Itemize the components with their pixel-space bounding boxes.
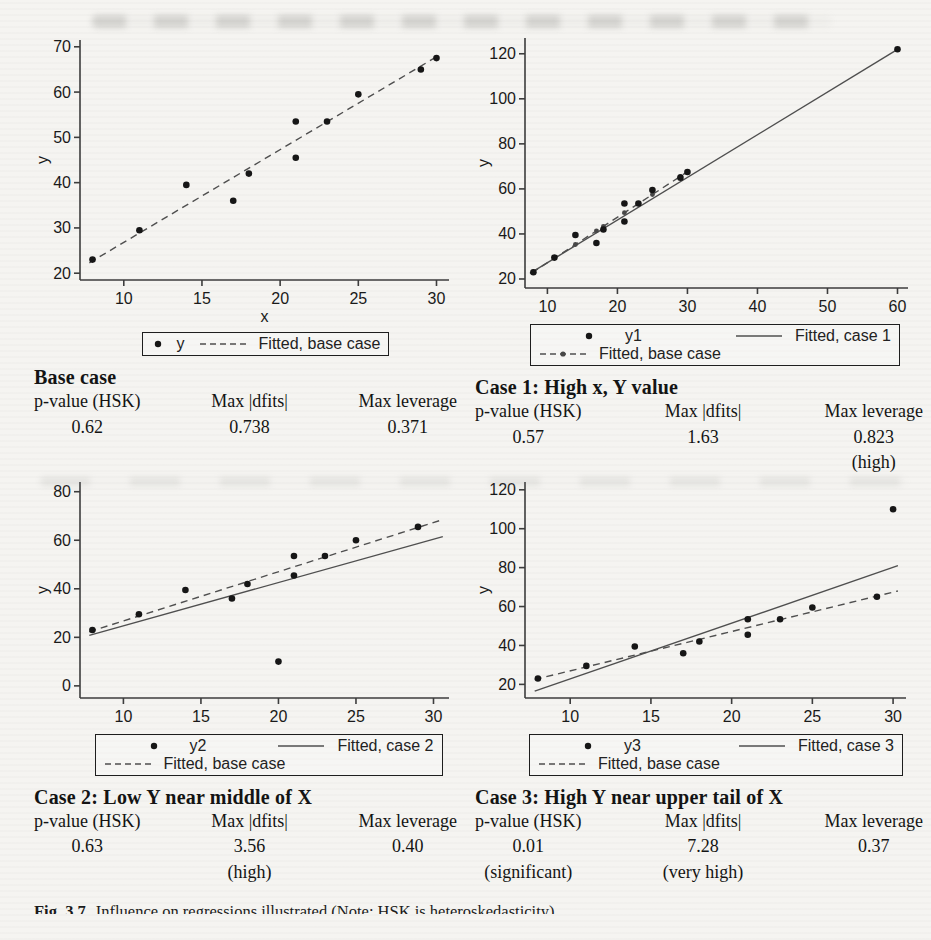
scatter-dot-icon: [565, 331, 613, 341]
case-1-scatter-chart: 20406080100120102030405060y: [475, 30, 920, 322]
stat-pvalue: p-value (HSK) 0.57: [475, 401, 581, 448]
legend-label: y1: [625, 327, 642, 345]
svg-text:20: 20: [53, 265, 71, 282]
svg-text:50: 50: [819, 298, 837, 315]
stat-label: Max leverage: [359, 811, 457, 833]
svg-text:25: 25: [803, 708, 821, 725]
legend-row: y3Fitted, case 3: [538, 737, 894, 755]
stat-value: 0.371: [359, 417, 457, 439]
stat-label: Max leverage: [825, 811, 923, 833]
solid-line-icon: [735, 331, 783, 341]
case-1-legend: y1Fitted, case 1Fitted, base case: [475, 324, 925, 366]
stat-label: p-value (HSK): [34, 811, 140, 833]
svg-text:20: 20: [53, 629, 71, 646]
legend-item: Fitted, case 2: [277, 737, 433, 755]
case-2-stats: p-value (HSK) 0.63 Max |dfits| 3.56 (hig…: [34, 811, 459, 884]
legend-item: Fitted, base case: [538, 755, 720, 773]
base-case-heading: Base case: [34, 366, 459, 389]
solid-line-icon: [277, 741, 325, 751]
stat-label: Max |dfits|: [211, 391, 288, 413]
svg-text:60: 60: [53, 84, 71, 101]
legend-row: y1Fitted, case 1: [539, 327, 891, 345]
figure-caption-number: Fig. 3.7: [34, 902, 86, 914]
legend-label: Fitted, case 3: [798, 737, 894, 755]
legend-item: y1: [539, 327, 642, 345]
base-case-legend: yFitted, base case: [34, 332, 459, 356]
stat-max-dfits: Max |dfits| 1.63: [665, 401, 742, 448]
dashed-line-icon: [199, 339, 247, 349]
svg-text:20: 20: [723, 708, 741, 725]
legend-label: Fitted, case 1: [795, 327, 891, 345]
stat-pvalue: p-value (HSK) 0.63: [34, 811, 140, 858]
legend-label: Fitted, base case: [598, 755, 720, 773]
dashed-line-icon: [538, 759, 586, 769]
stat-max-leverage: Max leverage 0.37: [825, 811, 923, 858]
svg-text:80: 80: [498, 559, 516, 576]
stat-max-dfits: Max |dfits| 0.738: [211, 391, 288, 438]
legend-label: y3: [624, 737, 641, 755]
legend-item: y3: [538, 737, 641, 755]
case-3-heading: Case 3: High Y near upper tail of X: [475, 786, 925, 809]
legend-row: Fitted, base case: [539, 345, 891, 363]
figure-grid: 2030405060701015202530yx yFitted, base c…: [0, 0, 931, 884]
svg-text:60: 60: [889, 298, 907, 315]
scatter-dot-icon: [130, 741, 178, 751]
stat-value: 0.01: [475, 836, 581, 858]
svg-text:20: 20: [270, 708, 288, 725]
legend-label: Fitted, base case: [599, 345, 721, 363]
svg-text:15: 15: [192, 708, 210, 725]
svg-text:0: 0: [62, 677, 71, 694]
panel-case-2: 0204060801015202530y y2Fitted, case 2Fit…: [34, 474, 459, 884]
scatter-dot-icon: [151, 339, 165, 349]
stat-max-leverage: Max leverage 0.371: [359, 391, 457, 438]
svg-text:20: 20: [498, 270, 516, 287]
svg-text:40: 40: [749, 298, 767, 315]
svg-text:20: 20: [271, 290, 289, 307]
stat-value: 0.57: [475, 427, 581, 449]
svg-text:120: 120: [489, 45, 516, 62]
legend-item: Fitted, base case: [104, 755, 286, 773]
base-case-chart-block: 2030405060701015202530yx yFitted, base c…: [34, 30, 459, 356]
stat-value: 0.37: [825, 836, 923, 858]
stat-label: Max |dfits|: [663, 811, 743, 833]
figure-caption: Fig. 3.7Influence on regressions illustr…: [34, 902, 931, 914]
stat-label: Max leverage: [359, 391, 457, 413]
legend-row: Fitted, base case: [104, 755, 434, 773]
case-2-chart-block: 0204060801015202530y y2Fitted, case 2Fit…: [34, 474, 459, 776]
svg-text:20: 20: [609, 298, 627, 315]
svg-text:30: 30: [53, 219, 71, 236]
svg-text:10: 10: [115, 290, 133, 307]
legend-row: Fitted, base case: [538, 755, 894, 773]
svg-text:60: 60: [53, 532, 71, 549]
case-3-legend: y3Fitted, case 3Fitted, base case: [475, 734, 925, 776]
legend-item: y: [151, 335, 185, 353]
legend-label: y2: [190, 737, 207, 755]
legend-box: y2Fitted, case 2Fitted, base case: [95, 734, 443, 776]
case-1-heading: Case 1: High x, Y value: [475, 376, 925, 399]
case-2-heading: Case 2: Low Y near middle of X: [34, 786, 459, 809]
figure-caption-text: Influence on regressions illustrated (No…: [96, 902, 555, 914]
dashed-line-with-marker-icon: [539, 349, 587, 359]
stat-label: p-value (HSK): [34, 391, 140, 413]
stat-label: p-value (HSK): [475, 811, 581, 833]
base-case-stats: p-value (HSK) 0.62 Max |dfits| 0.738 Max…: [34, 391, 459, 438]
legend-label: y: [177, 335, 185, 353]
stat-max-dfits: Max |dfits| 3.56 (high): [211, 811, 288, 884]
stat-qualifier: (high): [825, 452, 923, 474]
svg-text:60: 60: [498, 598, 516, 615]
svg-text:30: 30: [425, 708, 443, 725]
svg-text:30: 30: [884, 708, 902, 725]
stat-value: 1.63: [665, 427, 742, 449]
legend-box: yFitted, base case: [142, 332, 390, 356]
legend-item: y2: [104, 737, 207, 755]
case-1-stats: p-value (HSK) 0.57 Max |dfits| 1.63 Max …: [475, 401, 925, 474]
legend-item: Fitted, base case: [199, 335, 381, 353]
stat-max-leverage: Max leverage 0.823 (high): [825, 401, 923, 474]
case-2-scatter-chart: 0204060801015202530y: [34, 474, 459, 732]
svg-text:40: 40: [53, 580, 71, 597]
solid-line-icon: [738, 741, 786, 751]
stat-value: 0.40: [359, 836, 457, 858]
panel-case-1: 20406080100120102030405060y y1Fitted, ca…: [475, 30, 925, 474]
stat-qualifier: (high): [211, 862, 288, 884]
svg-text:y: y: [34, 586, 51, 594]
